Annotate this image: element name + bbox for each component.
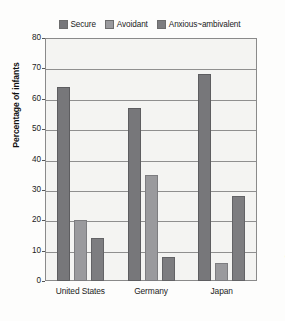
- bar: [232, 196, 245, 281]
- legend-entry-0: Secure: [59, 20, 96, 29]
- legend-entry-2: Anxious~ambivalent: [157, 20, 241, 29]
- legend-swatch-icon-2: [157, 20, 166, 29]
- legend-swatch-icon-0: [59, 20, 68, 29]
- bar: [91, 238, 104, 281]
- bar: [128, 108, 141, 281]
- chart-legend: SecureAvoidantAnxious~ambivalent: [42, 18, 257, 31]
- legend-label-2: Anxious~ambivalent: [169, 20, 241, 29]
- y-tick-label: 30: [19, 185, 41, 194]
- y-tick-label: 80: [19, 33, 41, 42]
- bar: [162, 257, 175, 281]
- y-tick-mark: [42, 281, 45, 282]
- bars-layer: [45, 38, 257, 281]
- bar: [57, 87, 70, 281]
- x-tick-label: Japan: [172, 286, 272, 296]
- legend-label-1: Avoidant: [117, 20, 148, 29]
- legend-swatch-icon-1: [105, 20, 114, 29]
- y-tick-label: 10: [19, 246, 41, 255]
- y-tick-label: 40: [19, 155, 41, 164]
- y-tick-label: 70: [19, 63, 41, 72]
- y-tick-label: 20: [19, 215, 41, 224]
- bar: [74, 220, 87, 281]
- legend-label-0: Secure: [71, 20, 96, 29]
- bar: [215, 263, 228, 281]
- copyright-credit: © 2017 Cengage Learning: [284, 176, 285, 259]
- bar-chart-figure: SecureAvoidantAnxious~ambivalent Percent…: [0, 0, 285, 321]
- legend-entry-1: Avoidant: [105, 20, 148, 29]
- bar: [145, 175, 158, 281]
- y-tick-label: 0: [19, 276, 41, 285]
- y-tick-label: 50: [19, 124, 41, 133]
- bar: [198, 74, 211, 281]
- y-tick-label: 60: [19, 94, 41, 103]
